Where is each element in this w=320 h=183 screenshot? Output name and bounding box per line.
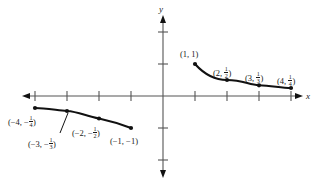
point-label-3-third: (3, 13) bbox=[245, 71, 263, 84]
leader-line-point--3 bbox=[60, 113, 68, 133]
label-suffix: ) bbox=[228, 68, 231, 78]
label-suffix: ) bbox=[33, 117, 36, 127]
point-label--3-third: (−3, −13) bbox=[28, 137, 56, 150]
label-suffix: ) bbox=[97, 128, 100, 138]
y-axis-label: y bbox=[159, 5, 163, 14]
point-label--2-half: (−2, −12) bbox=[72, 126, 100, 139]
point-label--4-quarter: (−4, −14) bbox=[8, 115, 36, 128]
point--3-third bbox=[65, 109, 69, 113]
x-axis-label: x bbox=[306, 92, 310, 101]
label-prefix: (−4, − bbox=[8, 117, 29, 127]
x-axis-arrow-right bbox=[295, 93, 303, 99]
y-axis-arrow-down bbox=[160, 170, 166, 178]
curve-branch-quadrant-3 bbox=[35, 108, 131, 128]
point--4-quarter bbox=[33, 106, 37, 110]
graph-figure: x y (1, 1) (2, 12) (3, 13) (4, 14) (−4, … bbox=[0, 0, 320, 183]
point-label-2-half: (2, 12) bbox=[213, 66, 231, 79]
label-prefix: (−2, − bbox=[72, 128, 93, 138]
coordinate-plane bbox=[0, 0, 320, 183]
label-prefix: (3, bbox=[245, 73, 256, 83]
point-label-4-quarter: (4, 14) bbox=[277, 74, 295, 87]
label-prefix: (2, bbox=[213, 68, 224, 78]
label-prefix: (−3, − bbox=[28, 139, 49, 149]
label-suffix: ) bbox=[260, 73, 263, 83]
label-suffix: ) bbox=[292, 76, 295, 86]
y-axis-arrow-up bbox=[160, 15, 166, 23]
point-1-1 bbox=[193, 62, 197, 66]
point-label--1--1: (−1, −1) bbox=[110, 137, 138, 146]
label-prefix: (4, bbox=[277, 76, 288, 86]
point--1--1 bbox=[129, 126, 133, 130]
point--2-half bbox=[97, 116, 101, 120]
x-axis-arrow-left bbox=[22, 93, 30, 99]
point-label-1-1: (1, 1) bbox=[180, 50, 198, 59]
label-suffix: ) bbox=[53, 139, 56, 149]
